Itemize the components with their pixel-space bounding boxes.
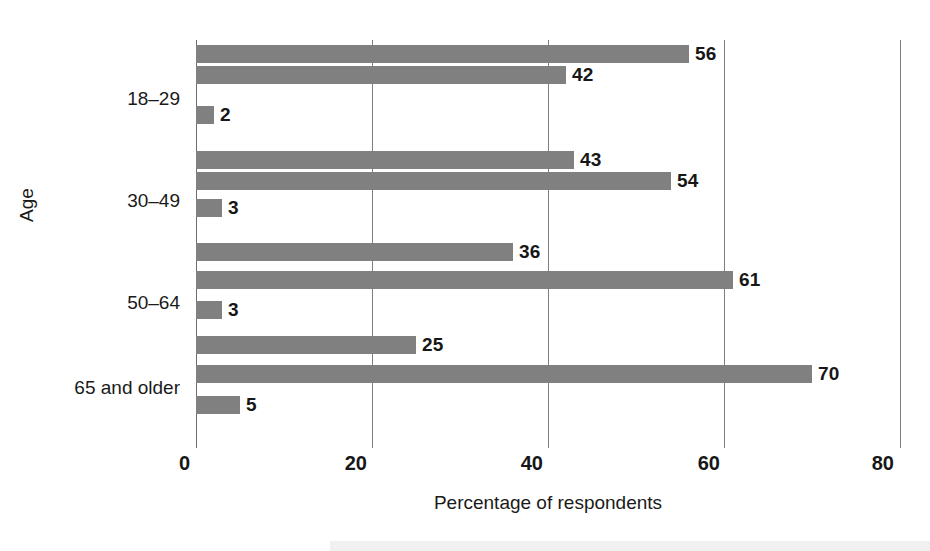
x-tick-label-80: 80 <box>872 452 900 475</box>
x-tick-label-0: 0 <box>179 452 196 475</box>
category-label-50-64: 50–64 <box>127 292 180 314</box>
gridline-80 <box>900 40 901 448</box>
bar-50-64-series-1 <box>196 243 513 261</box>
x-axis-title: Percentage of respondents <box>196 492 900 514</box>
x-tick-label-60: 60 <box>698 452 726 475</box>
bar-18-29-series-3 <box>196 106 214 124</box>
bar-50-64-series-2 <box>196 271 733 289</box>
bar-value-50-64-series-1: 36 <box>519 243 541 261</box>
bar-value-50-64-series-2: 61 <box>739 271 761 289</box>
x-tick-label-20: 20 <box>345 452 373 475</box>
category-label-group: 18–29 30–49 50–64 65 and older <box>0 0 180 551</box>
category-label-65-and-older: 65 and older <box>74 377 180 399</box>
bar-50-64-series-3 <box>196 301 222 319</box>
gridline-40 <box>548 40 549 448</box>
bar-value-65-and-older-series-3: 5 <box>246 396 257 414</box>
bar-30-49-series-3 <box>196 199 222 217</box>
bar-65-and-older-series-1 <box>196 336 416 354</box>
page-edge-strip <box>330 541 930 551</box>
category-label-30-49: 30–49 <box>127 190 180 212</box>
category-label-18-29: 18–29 <box>127 88 180 110</box>
bar-30-49-series-1 <box>196 151 574 169</box>
gridline-60 <box>724 40 725 448</box>
bar-value-30-49-series-2: 54 <box>677 172 699 190</box>
bar-30-49-series-2 <box>196 172 671 190</box>
bar-value-30-49-series-3: 3 <box>228 199 239 217</box>
bar-chart: Age 18–29 30–49 50–64 65 and older 56 42… <box>0 0 930 551</box>
plot-area: 56 42 2 43 54 3 36 61 3 25 70 5 <box>196 40 900 448</box>
bar-value-18-29-series-3: 2 <box>220 106 231 124</box>
bar-value-18-29-series-1: 56 <box>695 45 717 63</box>
bar-value-30-49-series-1: 43 <box>580 151 602 169</box>
bar-value-65-and-older-series-1: 25 <box>422 336 444 354</box>
bar-65-and-older-series-3 <box>196 396 240 414</box>
x-tick-label-40: 40 <box>521 452 549 475</box>
bar-value-65-and-older-series-2: 70 <box>818 365 840 383</box>
bar-65-and-older-series-2 <box>196 365 812 383</box>
bar-value-18-29-series-2: 42 <box>572 66 594 84</box>
bar-value-50-64-series-3: 3 <box>228 301 239 319</box>
bar-18-29-series-1 <box>196 45 689 63</box>
bar-18-29-series-2 <box>196 66 566 84</box>
